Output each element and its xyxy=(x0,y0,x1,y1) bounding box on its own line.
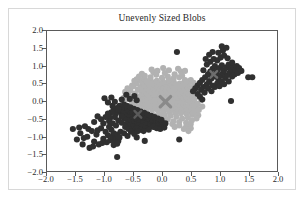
y-axis-tick-label: 0.0 xyxy=(15,97,43,106)
scatter-point xyxy=(114,141,120,147)
scatter-point xyxy=(141,128,147,134)
scatter-point xyxy=(119,97,125,103)
scatter-point xyxy=(183,79,189,85)
scatter-point xyxy=(80,141,86,147)
scatter-point xyxy=(249,74,255,80)
scatter-point xyxy=(182,68,188,74)
scatter-point xyxy=(145,78,151,84)
scatter-point xyxy=(99,140,105,146)
scatter-point xyxy=(172,71,178,77)
y-axis-tick-label: 0.5 xyxy=(15,79,43,88)
scatter-point xyxy=(162,120,168,126)
scatter-point xyxy=(85,126,91,132)
scatter-point xyxy=(193,115,199,121)
scatter-point xyxy=(91,119,97,125)
scatter-point xyxy=(203,56,209,62)
scatter-point xyxy=(166,77,172,83)
scatter-point xyxy=(74,136,80,142)
scatter-point xyxy=(224,55,230,61)
scatter-point xyxy=(228,98,234,104)
scatter-point xyxy=(142,138,148,144)
scatter-point xyxy=(191,97,197,103)
scatter-point xyxy=(190,110,196,116)
scatter-points-layer xyxy=(47,31,277,171)
scatter-point xyxy=(160,65,166,71)
scatter-point xyxy=(219,43,225,49)
scatter-point xyxy=(116,134,122,140)
scatter-point xyxy=(154,68,160,74)
scatter-point xyxy=(123,92,129,98)
scatter-point xyxy=(103,114,109,120)
scatter-point xyxy=(135,128,141,134)
scatter-point xyxy=(70,126,76,132)
scatter-point xyxy=(114,154,120,160)
scatter-point xyxy=(106,124,112,130)
scatter-point xyxy=(136,73,142,79)
scatter-point xyxy=(100,120,106,126)
scatter-point xyxy=(134,97,140,103)
scatter-point xyxy=(166,67,172,73)
scatter-point xyxy=(229,59,235,65)
y-axis-tick-labels: −2.0−1.5−1.0−0.50.00.51.01.52.0 xyxy=(12,30,43,172)
scatter-point xyxy=(199,97,205,103)
scatter-point xyxy=(185,128,191,134)
scatter-point xyxy=(238,68,244,74)
scatter-point xyxy=(172,124,178,130)
scatter-point xyxy=(199,104,205,110)
y-axis-tick-marks xyxy=(46,30,47,172)
scatter-point xyxy=(221,81,227,87)
scatter-point xyxy=(174,49,180,55)
scatter-series-blob-small-dark-upper-right xyxy=(190,43,255,104)
y-axis-tick-label: 1.0 xyxy=(15,61,43,70)
scatter-point xyxy=(149,66,155,72)
y-axis-tick-label: 2.0 xyxy=(15,26,43,35)
plot-area xyxy=(46,30,278,172)
y-axis-tick-label: −0.5 xyxy=(15,114,43,123)
page-title: Unevenly Sized Blobs xyxy=(46,13,278,23)
scatter-point xyxy=(146,127,152,133)
scatter-point xyxy=(90,143,96,149)
scatter-point xyxy=(175,66,181,72)
scatter-point xyxy=(176,136,182,142)
scatter-point xyxy=(115,106,121,112)
x-axis-tick-labels: −2.0−1.5−1.0−0.50.00.51.01.52.0 xyxy=(46,175,278,189)
matplotlib-figure: Unevenly Sized Blobs −2.0−1.5−1.0−0.50.0… xyxy=(0,0,305,199)
scatter-point xyxy=(129,83,135,89)
scatter-point xyxy=(113,122,119,128)
y-axis-tick-label: 1.5 xyxy=(15,43,43,52)
scatter-point xyxy=(112,99,118,105)
scatter-point xyxy=(200,67,206,73)
scatter-point xyxy=(95,127,101,133)
scatter-point xyxy=(76,125,82,131)
y-axis-tick-label: −1.5 xyxy=(15,150,43,159)
scatter-point xyxy=(95,113,101,119)
scatter-point xyxy=(215,50,221,56)
y-axis-tick-label: −1.0 xyxy=(15,132,43,141)
scatter-point xyxy=(81,135,87,141)
x-axis-tick-label: 2.0 xyxy=(260,175,296,184)
scatter-point xyxy=(210,83,216,89)
